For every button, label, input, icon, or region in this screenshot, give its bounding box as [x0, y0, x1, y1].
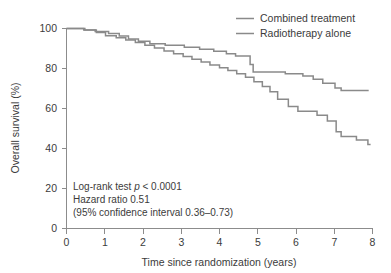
curve-radiotherapy-alone: [67, 29, 371, 145]
y-tick-label-60: 60: [45, 102, 57, 114]
x-tick-label-6: 6: [293, 236, 299, 248]
legend-label-combined-treatment: Combined treatment: [260, 12, 355, 24]
y-axis-title: Overall survival (%): [9, 82, 21, 173]
legend-label-radiotherapy-alone: Radiotherapy alone: [260, 27, 351, 39]
x-tick-label-5: 5: [255, 236, 261, 248]
x-axis-title: Time since randomization (years): [142, 256, 297, 268]
y-tick-label-20: 20: [45, 182, 57, 194]
x-tick-label-7: 7: [331, 236, 337, 248]
y-axis-ticks: 100 80 60 40 20 0: [39, 22, 66, 234]
statistics-annotation: Log-rank test p < 0.0001 Hazard ratio 0.…: [73, 181, 233, 218]
annotation-log-rank-prefix: Log-rank test: [73, 181, 134, 192]
survival-chart: 100 80 60 40 20 0 0 1 2 3 4 5 6 7 8 Time…: [0, 0, 391, 273]
annotation-confidence-interval: (95% confidence interval 0.36–0.73): [73, 207, 233, 218]
x-tick-label-2: 2: [140, 236, 146, 248]
x-tick-label-4: 4: [217, 236, 223, 248]
x-tick-label-8: 8: [370, 236, 376, 248]
x-tick-label-3: 3: [178, 236, 184, 248]
x-axis-ticks: 0 1 2 3 4 5 6 7 8: [64, 229, 376, 249]
annotation-log-rank: Log-rank test p < 0.0001: [73, 181, 182, 192]
annotation-log-rank-suffix: < 0.0001: [140, 181, 182, 192]
annotation-hazard-ratio: Hazard ratio 0.51: [73, 194, 150, 205]
y-tick-label-40: 40: [45, 142, 57, 154]
y-tick-label-80: 80: [45, 62, 57, 74]
x-tick-label-1: 1: [102, 236, 108, 248]
legend-item-radiotherapy-alone: Radiotherapy alone: [236, 27, 351, 39]
legend-item-combined-treatment: Combined treatment: [236, 12, 355, 24]
y-tick-label-100: 100: [39, 22, 57, 34]
y-tick-label-0: 0: [51, 222, 57, 234]
legend: Combined treatment Radiotherapy alone: [236, 12, 355, 39]
x-tick-label-0: 0: [64, 236, 70, 248]
